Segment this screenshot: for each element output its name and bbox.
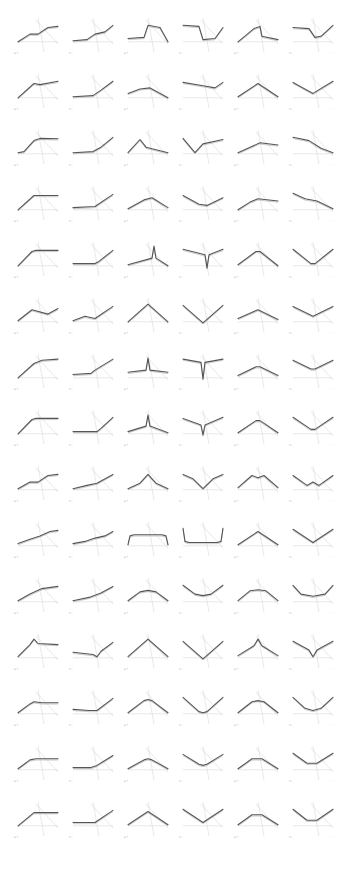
axis-label-right: · · · xyxy=(219,611,226,615)
axis-label-right: · · · xyxy=(329,107,336,111)
fitted-curve xyxy=(18,813,58,826)
guide-line xyxy=(256,300,278,324)
guide-line xyxy=(311,692,333,716)
axis-label-right: · · · xyxy=(274,275,281,279)
secondary-curve xyxy=(73,644,113,658)
axis-label-right: · · · xyxy=(164,163,171,167)
axis-label-right: · · · xyxy=(54,163,61,167)
curve-plot xyxy=(12,350,68,406)
fitted-curve xyxy=(128,812,168,825)
plot-cell: nᵧ· · · xyxy=(177,574,233,630)
axis-label-right: · · · xyxy=(274,331,281,335)
plot-cell: nᵧ· · · xyxy=(177,238,233,294)
secondary-curve xyxy=(18,83,58,100)
plot-cell: a↑· · · xyxy=(122,294,178,350)
axis-label-right: · · · xyxy=(219,163,226,167)
secondary-curve xyxy=(238,422,278,434)
guide-line xyxy=(91,692,113,716)
curve-plot xyxy=(177,406,233,462)
plot-cell: a↑· · · xyxy=(122,70,178,126)
curve-plot xyxy=(287,686,343,742)
guide-line xyxy=(91,412,113,436)
axis-label-right: · · · xyxy=(109,219,116,223)
axis-label-right: · · · xyxy=(164,51,171,55)
secondary-curve xyxy=(73,27,113,42)
axis-label-left: a↑ xyxy=(124,163,129,167)
axis-label-right: · · · xyxy=(54,779,61,783)
fitted-curve xyxy=(183,474,223,488)
axis-label-right: · · · xyxy=(274,779,281,783)
axis-label-right: · · · xyxy=(274,499,281,503)
axis-label-right: · · · xyxy=(274,723,281,727)
axis-label-left: nᵧ xyxy=(69,779,73,783)
axis-label-right: · · · xyxy=(109,611,116,615)
axis-label-right: · · · xyxy=(164,611,171,615)
axis-label-right: · · · xyxy=(54,219,61,223)
axis-label-right: · · · xyxy=(219,779,226,783)
secondary-curve xyxy=(128,701,168,714)
guide-line xyxy=(256,412,278,436)
axis-label-right: · · · xyxy=(54,107,61,111)
plot-cell: nᵧ· · · xyxy=(67,406,123,462)
guide-line xyxy=(146,20,168,44)
axis-label-left: a↑ xyxy=(14,275,19,279)
axis-label-right: · · · xyxy=(109,555,116,559)
plot-cell: a↑· · · xyxy=(232,238,288,294)
axis-label-left: a↑ xyxy=(124,611,129,615)
plot-cell: nᵧ· · · xyxy=(177,630,233,686)
curve-plot xyxy=(12,462,68,518)
guide-line xyxy=(201,188,223,212)
axis-label-left: nᵧ xyxy=(179,107,183,111)
guide-line xyxy=(36,188,58,212)
plot-cell: nᵧ· · · xyxy=(287,126,343,182)
axis-label-right: · · · xyxy=(164,835,171,839)
axis-label-right: · · · xyxy=(219,723,226,727)
plot-cell: nᵧ· · · xyxy=(287,70,343,126)
axis-label-right: · · · xyxy=(109,107,116,111)
curve-plot xyxy=(12,238,68,294)
plot-cell: nᵧ· · · xyxy=(287,182,343,238)
curve-plot xyxy=(287,14,343,70)
guide-line xyxy=(36,580,58,604)
curve-plot xyxy=(12,406,68,462)
plot-cell: nᵧ· · · xyxy=(67,182,123,238)
guide-line xyxy=(311,412,333,436)
curve-plot xyxy=(177,294,233,350)
guide-line xyxy=(256,524,278,548)
secondary-curve xyxy=(238,144,278,154)
axis-label-right: · · · xyxy=(109,835,116,839)
fitted-curve xyxy=(238,84,278,97)
secondary-curve xyxy=(183,476,223,490)
curve-plot xyxy=(12,686,68,742)
axis-label-right: · · · xyxy=(219,499,226,503)
axis-label-left: a↑ xyxy=(234,835,239,839)
plot-cell: a↑· · · xyxy=(122,518,178,574)
axis-label-right: · · · xyxy=(164,107,171,111)
plot-cell: nᵧ· · · xyxy=(67,518,123,574)
plot-cell: nᵧ· · · xyxy=(177,182,233,238)
axis-label-right: · · · xyxy=(219,667,226,671)
plot-cell: nᵧ· · · xyxy=(287,406,343,462)
axis-label-right: · · · xyxy=(164,723,171,727)
axis-label-right: · · · xyxy=(274,387,281,391)
curve-plot xyxy=(122,574,178,630)
axis-label-right: · · · xyxy=(164,387,171,391)
plot-cell: a↑· · · xyxy=(12,686,68,742)
guide-line xyxy=(256,468,278,492)
axis-label-left: a↑ xyxy=(14,555,19,559)
curve-plot xyxy=(122,126,178,182)
axis-label-left: nᵧ xyxy=(69,667,73,671)
curve-plot xyxy=(67,14,123,70)
axis-label-right: · · · xyxy=(329,835,336,839)
curve-plot xyxy=(287,350,343,406)
axis-label-right: · · · xyxy=(219,219,226,223)
secondary-curve xyxy=(18,532,58,545)
curve-plot xyxy=(67,798,123,854)
axis-label-right: · · · xyxy=(274,443,281,447)
curve-plot xyxy=(67,462,123,518)
axis-label-right: · · · xyxy=(54,443,61,447)
plot-cell: a↑· · · xyxy=(232,350,288,406)
curve-plot xyxy=(122,238,178,294)
guide-line xyxy=(91,300,113,324)
fitted-curve xyxy=(293,306,333,316)
